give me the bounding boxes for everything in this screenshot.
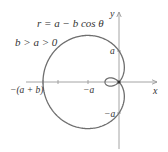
- pos-a-y-label: a: [110, 46, 115, 56]
- x-axis-label: x: [152, 85, 158, 96]
- y-axis-label: y: [109, 8, 115, 19]
- neg-a-x-label: −a: [83, 85, 94, 95]
- neg-a-y-label: −a: [104, 109, 115, 119]
- condition-label: b > a > 0: [15, 36, 58, 48]
- left-extent-label: −(a + b): [10, 85, 43, 96]
- limacon-figure: r = a − b cos θ b > a > 0 y x −(a + b) −…: [0, 0, 168, 152]
- equation-label: r = a − b cos θ: [37, 17, 104, 29]
- origin-dot: [117, 80, 120, 83]
